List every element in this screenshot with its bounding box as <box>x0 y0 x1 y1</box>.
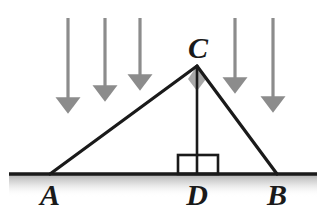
geometry-figure: A D B C <box>0 0 326 217</box>
vertex-label-a: A <box>38 178 60 211</box>
vertex-label-b: B <box>266 178 287 211</box>
geometry-diagram-canvas: A D B C <box>0 0 326 217</box>
vertex-label-d: D <box>185 178 208 211</box>
vertex-label-c: C <box>188 31 209 64</box>
